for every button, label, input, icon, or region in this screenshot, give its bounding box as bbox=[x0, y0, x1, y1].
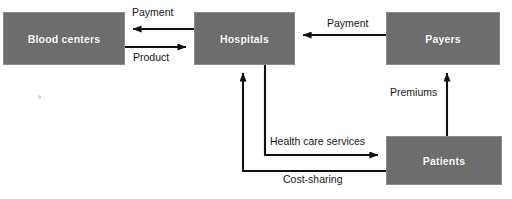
edge-label-payment-hospitals: Payment bbox=[325, 17, 370, 29]
node-label-patients: Patients bbox=[423, 155, 465, 167]
node-blood-centers[interactable]: Blood centers bbox=[3, 12, 125, 65]
node-label-payers: Payers bbox=[425, 33, 461, 45]
node-label-blood-centers: Blood centers bbox=[28, 33, 101, 45]
edge-label-payment-blood-centers: Payment bbox=[130, 6, 175, 18]
edge-label-cost-sharing: Cost-sharing bbox=[281, 173, 345, 185]
node-patients[interactable]: Patients bbox=[386, 136, 502, 185]
flow-diagram: Blood centers Hospitals Payers Patients … bbox=[0, 0, 512, 199]
node-label-hospitals: Hospitals bbox=[220, 33, 269, 45]
node-payers[interactable]: Payers bbox=[386, 12, 500, 65]
edge-label-product: Product bbox=[131, 51, 171, 63]
page-artifact-speck bbox=[38, 95, 41, 99]
node-hospitals[interactable]: Hospitals bbox=[194, 12, 295, 65]
edge-label-health-care-services: Health care services bbox=[268, 135, 367, 147]
edge-label-premiums: Premiums bbox=[388, 86, 439, 98]
